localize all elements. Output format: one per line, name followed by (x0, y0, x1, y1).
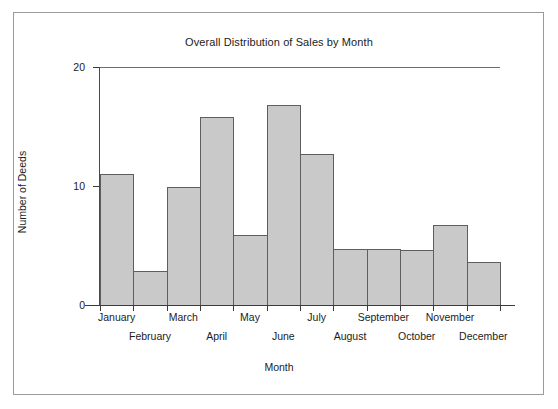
x-tick-mark (267, 306, 268, 311)
x-axis-label: June (272, 330, 295, 342)
bar (433, 225, 467, 305)
bar (267, 105, 301, 305)
y-tick-mark (93, 67, 99, 68)
chart-figure: Overall Distribution of Sales by Month 2… (0, 0, 558, 409)
bar (233, 235, 267, 305)
y-tick-mark (93, 186, 99, 187)
x-axis-label: November (426, 311, 474, 323)
chart-title: Overall Distribution of Sales by Month (0, 36, 558, 48)
bar (200, 117, 234, 305)
x-tick-mark (200, 306, 201, 311)
x-axis-title: Month (0, 361, 558, 373)
x-tick-mark (500, 306, 501, 311)
x-axis-label: September (358, 311, 409, 323)
x-tick-mark (233, 306, 234, 311)
y-tick-label: 20 (45, 61, 85, 73)
bar (167, 187, 201, 305)
x-axis-label: December (459, 330, 507, 342)
y-axis-title: Number of Deeds (16, 122, 28, 262)
bar (133, 271, 167, 306)
y-tick-label: 0 (45, 299, 85, 311)
x-axis-label: July (307, 311, 326, 323)
x-tick-mark (300, 306, 301, 311)
x-axis-label: January (98, 311, 135, 323)
x-axis-label: April (206, 330, 227, 342)
x-tick-mark (167, 306, 168, 311)
bar (367, 249, 401, 305)
bar (467, 262, 501, 305)
bar (333, 249, 367, 305)
x-axis-label: October (398, 330, 435, 342)
x-tick-mark (333, 306, 334, 311)
bar (100, 174, 134, 305)
bar-series (100, 67, 500, 305)
bar (300, 154, 334, 305)
x-axis-label: March (169, 311, 198, 323)
x-axis-label: February (129, 330, 171, 342)
y-tick-mark (93, 305, 99, 306)
y-tick-label: 10 (45, 180, 85, 192)
x-axis-label: August (334, 330, 367, 342)
bar (400, 250, 434, 305)
x-axis-label: May (240, 311, 260, 323)
